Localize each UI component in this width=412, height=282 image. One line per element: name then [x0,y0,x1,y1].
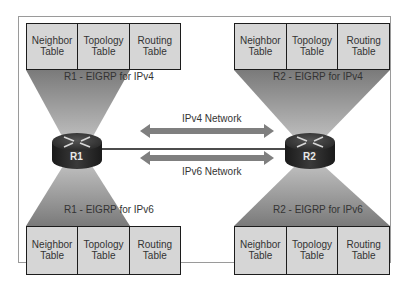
routing-table: Routing Table [338,24,389,69]
routing-table: Routing Table [338,227,389,274]
r1-ipv4-table-group: Neighbor Table Topology Table Routing Ta… [26,23,181,70]
ipv6-arrow [140,151,274,165]
topology-table: Topology Table [287,24,339,69]
neighbor-table: Neighbor Table [27,24,78,69]
r2-ipv6-table-group: Neighbor Table Topology Table Routing Ta… [234,226,390,275]
topology-table: Topology Table [287,227,339,274]
r2-ipv6-label: R2 - EIGRP for IPv6 [273,204,363,215]
routing-table: Routing Table [130,24,180,69]
neighbor-table: Neighbor Table [27,227,78,274]
ipv6-network-label: IPv6 Network [182,166,241,177]
router-r2-name: R2 [303,151,316,162]
routing-table: Routing Table [130,227,180,274]
r1-ipv6-table-group: Neighbor Table Topology Table Routing Ta… [26,226,181,275]
neighbor-table: Neighbor Table [235,24,287,69]
r1-ipv6-label: R1 - EIGRP for IPv6 [64,204,154,215]
ipv4-arrow [140,124,274,138]
topology-table: Topology Table [78,24,129,69]
r2-ipv4-label: R2 - EIGRP for IPv4 [273,71,363,82]
r2-ipv4-table-group: Neighbor Table Topology Table Routing Ta… [234,23,390,70]
ipv4-network-label: IPv4 Network [182,113,241,124]
router-r1-name: R1 [70,151,83,162]
r2-ipv6-cone [234,166,390,226]
topology-table: Topology Table [78,227,129,274]
r1-ipv4-label: R1 - EIGRP for IPv4 [64,71,154,82]
neighbor-table: Neighbor Table [235,227,287,274]
r1-ipv6-cone [26,166,130,226]
